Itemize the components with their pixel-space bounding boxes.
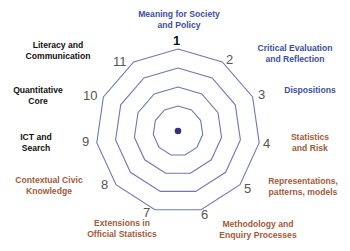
axis-label-quantitative-core: Quantitative Core [6, 85, 70, 106]
axis-label-critical-evaluation: Critical Evaluation and Reflection [245, 43, 345, 64]
axis-label-statistics-and-risk: Statistics and Risk [280, 132, 340, 153]
axis-number-10: 10 [83, 89, 97, 102]
axis-number-2: 2 [226, 53, 233, 66]
radar-diagram: 1 2 3 4 5 6 7 8 9 10 11 Meaning for Soci… [0, 0, 350, 251]
axis-label-representations: Representations, patterns, models [256, 176, 350, 197]
axis-number-9: 9 [82, 135, 89, 148]
axis-number-1: 1 [173, 34, 180, 47]
axis-label-literacy-and-communication: Literacy and Communication [20, 40, 96, 61]
axis-label-dispositions: Dispositions [270, 85, 350, 96]
center-dot [175, 128, 182, 135]
axis-label-extensions-official-statistics: Extensions in Official Statistics [72, 218, 172, 239]
axis-number-5: 5 [244, 182, 251, 195]
axis-label-contextual-civic-knowledge: Contextual Civic Knowledge [5, 175, 93, 196]
axis-number-3: 3 [258, 88, 265, 101]
axis-label-meaning-for-society: Meaning for Society and Policy [124, 9, 234, 30]
axis-number-8: 8 [101, 178, 108, 191]
axis-label-methodology: Methodology and Enquiry Processes [208, 219, 308, 240]
axis-label-ict-and-search: ICT and Search [10, 132, 62, 153]
axis-number-11: 11 [113, 55, 127, 68]
axis-number-4: 4 [263, 137, 270, 150]
